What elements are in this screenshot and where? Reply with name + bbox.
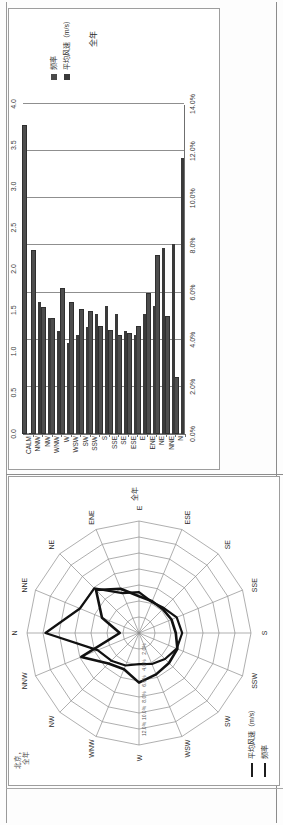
panel-divider [6,474,283,475]
bar-y2tick-label: 0.5 [10,388,17,398]
bar-windspeed [67,343,70,434]
wind-rose-radial-label: 4.0% [141,659,147,670]
bar-y2tick-label: 0.0 [10,429,17,439]
wind-rose-direction-label: SSE [251,578,258,592]
bar-axis-tick [128,434,129,437]
wind-rose-direction-label: ENE [88,510,95,524]
wind-rose-chart: 平均风速（m/s）频率 全年 NNNENEENEEESESESSESSSWSWW… [8,476,280,786]
bar-category-label: ENE [148,436,155,466]
bar-y2tick-label: 4.0 [10,99,17,109]
bar-windspeed [38,302,41,434]
bar-category-label: WSW [72,436,79,466]
wind-rose-direction-label: E [136,506,143,511]
bar-frequency [60,288,65,434]
bar-axis-tick [166,434,167,437]
wind-rose-direction-label: ESE [183,511,190,525]
bar-axis-tick [61,434,62,437]
bar-gridline [23,197,184,198]
legend-label: 频率 [258,745,271,759]
bar-ytick-label: 6.0% [189,285,196,301]
legend-label: 频率 [47,56,60,70]
legend-swatch-icon [64,74,70,80]
legend-item: 频率 [258,706,271,777]
bar-frequency [146,293,151,434]
bar-ytick-label: 10.0% [189,188,196,208]
bar-category-label: NE [158,436,165,466]
bar-category-label: CALM [24,436,31,466]
bar-gridline [23,244,184,245]
bar-axis-tick [33,434,34,437]
wind-rose-direction-label: W [136,755,143,762]
legend-line-icon [251,763,253,777]
bar-windspeed [162,248,165,434]
bar-windspeed [76,335,79,434]
bar-category-label: SW [81,436,88,466]
bar-category-label: ESE [129,436,136,466]
scanned-page: 图 2-3-1 北京全年风玫瑰图 0.0%2.0%4.0%6.0%8.0%10.… [0,0,283,825]
bar-axis-tick [109,434,110,437]
bar-ytick-label: 2.0% [189,379,196,395]
bar-windspeed [48,319,51,435]
wind-rose-legend: 平均风速（m/s）频率 [245,706,271,777]
bar-y2tick-label: 1.5 [10,305,17,315]
bar-axis-tick [156,434,157,437]
bottom-caption-wrap: 北京， 全年 [14,698,32,818]
bar-y2tick-label: 1.0 [10,347,17,357]
bar-category-label: E [139,436,146,466]
legend-line-icon [264,763,266,777]
bar-axis-tick [80,434,81,437]
wind-rose-direction-label: SE [224,540,231,549]
bar-windspeed [134,335,137,434]
bar-ytick-label: 0.0% [189,426,196,442]
wind-rose-direction-label: SW [224,716,231,727]
wind-rose-panel: 平均风速（m/s）频率 全年 NNNENEENEEESESESSESSSWSWW… [8,476,280,786]
legend-swatch-icon [51,74,57,80]
bar-axis-tick [137,434,138,437]
legend-label: 平均风速（m/s） [60,17,73,70]
bar-axis-tick [71,434,72,437]
wind-rose-direction-label: N [11,630,18,635]
page-border-left [6,2,7,823]
wind-rose-direction-label: WSW [183,740,190,758]
bar-axis-tick [185,434,186,437]
bar-axis-tick [52,434,53,437]
bar-category-label: SE [120,436,127,466]
bar-windspeed [172,244,175,434]
bar-windspeed [95,314,98,434]
wind-rose-direction-label: NE [47,540,54,550]
bar-windspeed [124,331,127,434]
bar-windspeed [153,306,156,434]
bar-frequency [69,302,74,434]
legend-item: 频率 [47,17,60,80]
bar-gridline [23,103,184,104]
bar-frequency [155,255,160,434]
bar-windspeed [143,314,146,434]
bar-category-label: NNW [34,436,41,466]
bar-ytick-label: 8.0% [189,237,196,253]
bar-category-label: N [177,436,184,466]
bar-frequency [41,307,46,434]
wind-rose-direction-label: S [261,631,268,636]
bar-axis-tick [90,434,91,437]
bar-windspeed [86,327,89,434]
bar-frequency [136,326,141,434]
bar-category-label: SSE [110,436,117,466]
bar-frequency [117,335,122,434]
bottom-caption-line1: 北京， [14,698,22,818]
bar-frequency [22,125,27,434]
bar-frequency [108,330,113,434]
bar-y2tick-label: 2.5 [10,223,17,233]
bar-windspeed [105,306,108,434]
bar-frequency [31,250,36,434]
bar-frequency [127,333,132,434]
bar-category-label: NNE [167,436,174,466]
bar-frequency [88,311,93,434]
bottom-caption: 北京， 全年 [14,698,30,818]
wind-rose-radial-label: 2.0% [141,643,147,654]
bar-axis-tick [42,434,43,437]
wind-rose-radial-label: 8.0% [141,691,147,702]
bar-ytick-label: 14.0% [189,94,196,114]
bar-chart-subtitle: 全年 [87,31,98,47]
wind-rose-title: 全年 [129,487,139,501]
bar-axis-tick [147,434,148,437]
